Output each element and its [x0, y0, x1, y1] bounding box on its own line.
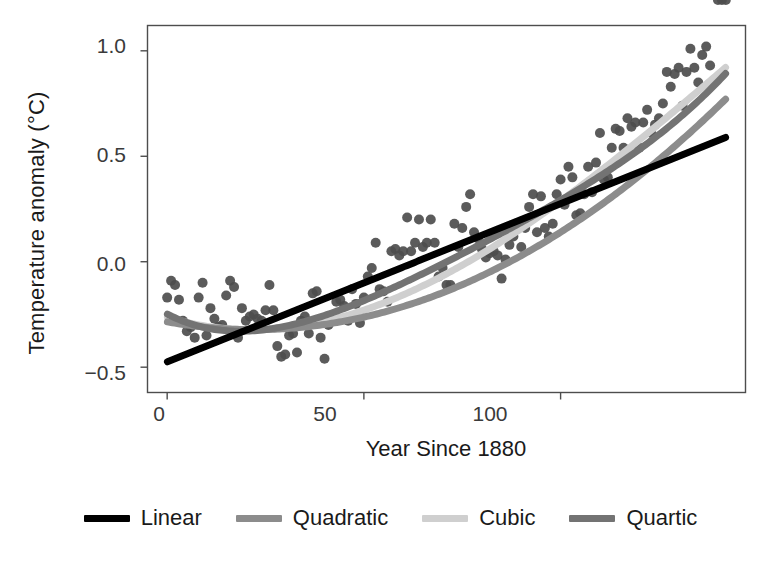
legend-label-quartic: Quartic — [626, 505, 697, 531]
legend-item-linear[interactable]: Linear — [84, 505, 202, 531]
chart-legend: Linear Quadratic Cubic Quartic — [0, 505, 781, 531]
legend-item-quadratic[interactable]: Quadratic — [236, 505, 388, 531]
legend-swatch-quadratic — [236, 515, 282, 522]
legend-item-cubic[interactable]: Cubic — [422, 505, 535, 531]
legend-swatch-linear — [84, 515, 130, 522]
legend-swatch-quartic — [569, 515, 615, 522]
legend-label-quadratic: Quadratic — [293, 505, 388, 531]
legend-label-linear: Linear — [141, 505, 202, 531]
plot-canvas — [0, 0, 781, 569]
legend-swatch-cubic — [422, 515, 468, 522]
legend-label-cubic: Cubic — [479, 505, 535, 531]
chart-figure: Temperature anomaly (°C) 1.0 0.5 0.0 −0.… — [0, 0, 781, 569]
legend-item-quartic[interactable]: Quartic — [569, 505, 697, 531]
